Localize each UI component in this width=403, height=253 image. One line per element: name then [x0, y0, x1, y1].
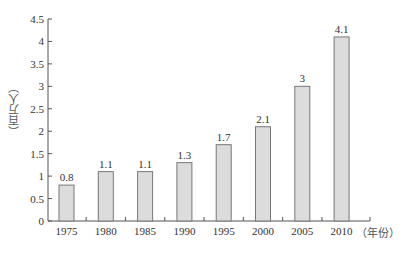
- y-tick-label: 4: [39, 35, 45, 47]
- x-tick-label: 1975: [56, 225, 79, 237]
- bar-1990: [177, 163, 192, 221]
- y-tick-label: 4.5: [30, 13, 44, 25]
- y-axis-label: （百万人）: [5, 85, 25, 137]
- bar-value-label: 1.7: [217, 131, 231, 143]
- bar-1995: [216, 145, 231, 221]
- x-axis-label: （年份）: [356, 224, 400, 240]
- x-tick-label: 1990: [173, 225, 196, 237]
- bar-1985: [138, 172, 153, 221]
- bar-value-label: 1.1: [99, 158, 113, 170]
- bar-2000: [256, 127, 271, 221]
- bar-value-label: 2.1: [256, 113, 270, 125]
- bar-1980: [98, 172, 113, 221]
- x-tick-label: 1995: [213, 225, 236, 237]
- y-tick-label: 2: [39, 125, 45, 137]
- y-tick-label: 0.5: [30, 193, 44, 205]
- bar-value-label: 1.3: [178, 149, 192, 161]
- x-tick-label: 1985: [134, 225, 157, 237]
- y-tick-label: 0: [39, 215, 45, 227]
- x-tick-label: 1980: [95, 225, 118, 237]
- y-tick-label: 2.5: [30, 103, 44, 115]
- x-tick-label: 2000: [252, 225, 275, 237]
- x-tick-label: 2005: [291, 225, 314, 237]
- y-tick-label: 1: [39, 170, 45, 182]
- y-tick-label: 3: [39, 80, 45, 92]
- x-tick-label: 2010: [331, 225, 354, 237]
- bar-chart: 00.511.522.533.544.50.819751.119801.1198…: [0, 0, 403, 253]
- bar-2010: [334, 37, 349, 221]
- bar-value-label: 4.1: [335, 23, 349, 35]
- bar-value-label: 3: [300, 72, 306, 84]
- chart-plot-area: 00.511.522.533.544.50.819751.119801.1198…: [0, 0, 403, 253]
- bar-1975: [59, 185, 74, 221]
- y-tick-label: 1.5: [30, 148, 44, 160]
- bar-value-label: 0.8: [60, 171, 74, 183]
- bar-2005: [295, 86, 310, 221]
- y-tick-label: 3.5: [30, 58, 44, 70]
- bar-value-label: 1.1: [138, 158, 152, 170]
